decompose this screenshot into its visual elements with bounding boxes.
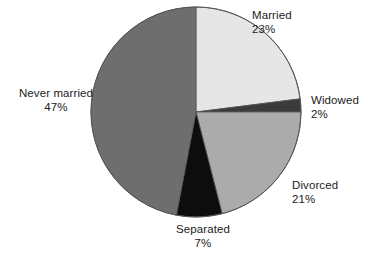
pie-label-never-married: Never married 47% xyxy=(8,86,104,114)
pie-label-divorced: Divorced 21% xyxy=(292,178,338,206)
pie-chart: Married 23% Widowed 2% Divorced 21% Sepa… xyxy=(0,0,368,262)
pie-label-married: Married 23% xyxy=(252,8,292,36)
pie-label-widowed: Widowed 2% xyxy=(311,93,359,121)
pie-label-married-name: Married xyxy=(252,8,292,22)
pie-label-separated-name: Separated xyxy=(160,222,246,236)
pie-label-married-value: 23% xyxy=(252,22,292,36)
pie-label-separated-value: 7% xyxy=(160,236,246,250)
pie-label-widowed-name: Widowed xyxy=(311,93,359,107)
pie-label-never-married-name: Never married xyxy=(8,86,104,100)
pie-label-divorced-name: Divorced xyxy=(292,178,338,192)
pie-label-divorced-value: 21% xyxy=(292,192,338,206)
pie-label-widowed-value: 2% xyxy=(311,107,359,121)
pie-label-never-married-value: 47% xyxy=(8,100,104,114)
pie-label-separated: Separated 7% xyxy=(160,222,246,250)
pie-slice-never-married xyxy=(91,7,196,215)
pie-slice-group xyxy=(91,7,301,217)
